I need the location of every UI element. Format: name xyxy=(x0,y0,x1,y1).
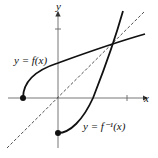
diagram-canvas xyxy=(0,0,158,158)
curve-f xyxy=(23,34,145,98)
curve-f-inverse xyxy=(58,11,123,133)
endpoint-f-inverse xyxy=(55,130,61,136)
function-inverse-diagram: x y y = f(x) y = f⁻¹(x) xyxy=(0,0,158,158)
label-f: y = f(x) xyxy=(14,54,47,66)
x-axis-label: x xyxy=(144,92,149,104)
y-axis-label: y xyxy=(56,0,61,12)
endpoint-f xyxy=(20,95,26,101)
label-f-inverse: y = f⁻¹(x) xyxy=(83,120,125,133)
